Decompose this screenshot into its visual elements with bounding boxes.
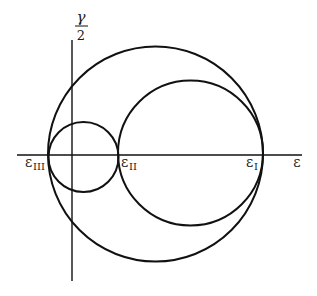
outer-circle — [48, 47, 263, 262]
subscript-I: I — [254, 161, 258, 172]
small-inner-circle — [49, 122, 119, 192]
label-epsilon-III: ε III — [25, 154, 45, 172]
mohr-circle-diagram: γ 2 ε ε III ε II ε I — [0, 0, 317, 296]
subscript-III: III — [33, 161, 45, 172]
large-inner-circle — [118, 81, 263, 226]
epsilon-symbol: ε — [121, 154, 128, 170]
vertical-axis-label: γ 2 — [75, 8, 88, 43]
subscript-II: II — [129, 161, 137, 172]
epsilon-symbol: ε — [246, 154, 253, 170]
label-epsilon-II: ε II — [121, 154, 137, 172]
denominator: 2 — [77, 28, 85, 43]
horizontal-axis-label: ε — [293, 154, 300, 170]
label-epsilon-I: ε I — [246, 154, 258, 172]
epsilon-symbol: ε — [25, 154, 32, 170]
gamma-symbol: γ — [77, 8, 86, 26]
